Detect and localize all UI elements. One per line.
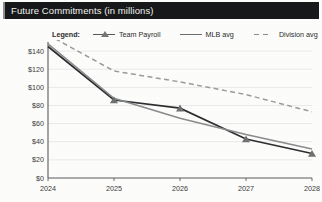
legend-item-division-avg: Division avg [253,30,318,39]
y-axis-tick-label: $100 [28,83,44,92]
plot-area: $0$20$40$60$80$100$120$140 2024202520262… [0,40,322,202]
y-axis-tick-label: $80 [32,101,44,110]
x-axis-tick-label: 2026 [172,184,188,193]
legend-item-team-payroll: Team Payroll [93,30,161,39]
x-axis-tick-labels: 20242025202620272028 [40,184,320,193]
x-axis-tick-label: 2024 [40,184,56,193]
series-line-mlb-avg [48,44,312,149]
data-series-group [48,40,312,154]
line-dashed-icon [253,31,275,39]
y-axis-tick-label: $140 [28,47,44,56]
y-axis-tick-label: $40 [32,137,44,146]
legend-item-label: Division avg [279,30,318,39]
line-marker-icon [93,31,115,39]
page-title: Future Commitments (in millions) [5,5,154,16]
y-axis-tick-label: $20 [32,155,44,164]
x-axis-tick-label: 2025 [106,184,122,193]
legend-item-label: Team Payroll [119,30,161,39]
y-axis-tick-labels: $0$20$40$60$80$100$120$140 [28,47,44,183]
legend-label: Legend: [52,30,80,39]
y-axis-tick-label: $60 [32,119,44,128]
x-axis-tick-label: 2027 [238,184,254,193]
legend-item-label: MLB avg [206,30,234,39]
x-axis-tick-label: 2028 [304,184,320,193]
chart-panel: Future Commitments (in millions) Legend:… [0,0,322,202]
y-axis-tick-label: $0 [36,174,44,183]
line-chart: $0$20$40$60$80$100$120$140 2024202520262… [0,40,322,202]
series-line-team-payroll [48,47,312,154]
legend-item-mlb-avg: MLB avg [180,30,234,39]
panel-header: Future Commitments (in millions) [3,2,319,19]
line-solid-icon [180,31,202,39]
y-axis-tick-label: $120 [28,65,44,74]
